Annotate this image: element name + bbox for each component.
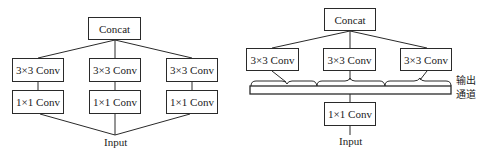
- left-branch1-1x1-conv: 1×1 Conv: [12, 90, 64, 114]
- left-branch1-3x3-conv: 3×3 Conv: [12, 58, 64, 82]
- left-branch2-1x1-conv: 1×1 Conv: [89, 90, 141, 114]
- output-channel-label-line2: 通道: [456, 88, 476, 101]
- right-1x1-conv: 1×1 Conv: [324, 102, 376, 126]
- left-branch2-3x3-conv: 3×3 Conv: [89, 58, 141, 82]
- output-channel-bar: [250, 86, 451, 94]
- left-input-label: Input: [104, 136, 127, 148]
- right-input-label: Input: [339, 135, 362, 147]
- connector-lines: [0, 0, 483, 157]
- output-channel-label-line1: 输出: [456, 74, 476, 87]
- left-branch3-3x3-conv: 3×3 Conv: [166, 58, 218, 82]
- right-branch1-3x3-conv: 3×3 Conv: [246, 48, 299, 71]
- right-branch3-3x3-conv: 3×3 Conv: [400, 48, 452, 71]
- left-concat-box: Concat: [88, 17, 141, 40]
- left-branch3-1x1-conv: 1×1 Conv: [166, 90, 218, 114]
- right-branch2-3x3-conv: 3×3 Conv: [323, 48, 376, 71]
- right-concat-box: Concat: [324, 8, 376, 31]
